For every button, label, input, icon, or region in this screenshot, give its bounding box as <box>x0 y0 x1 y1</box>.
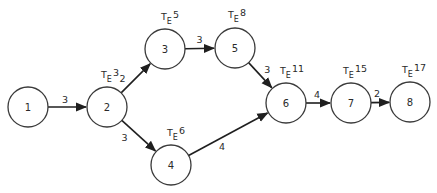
edge-duration-label: 2 <box>374 88 380 99</box>
earliest-time-label: TE17 <box>401 62 426 79</box>
te-value: 5 <box>173 9 179 20</box>
te-subscript: E <box>286 71 291 80</box>
node-number: 7 <box>348 98 354 109</box>
node-number: 5 <box>232 43 238 54</box>
node-number: 3 <box>162 44 168 55</box>
node-number: 1 <box>25 102 31 113</box>
earliest-time-label: TE11 <box>279 63 304 80</box>
edge-duration-label: 2 <box>120 73 126 84</box>
te-subscript: E <box>349 71 354 80</box>
node-number: 2 <box>104 102 110 113</box>
te-value: 15 <box>355 63 367 74</box>
te-value: 11 <box>292 63 304 74</box>
te-value: 3 <box>113 67 119 78</box>
edge-6-7: 4 <box>306 89 330 104</box>
edge-7-8: 2 <box>371 88 389 103</box>
te-subscript: E <box>234 15 239 24</box>
te-value: 17 <box>414 62 426 73</box>
te-value: 6 <box>179 125 185 136</box>
edge-5-6: 3 <box>249 63 272 88</box>
edge-1-2: 3 <box>48 94 86 108</box>
earliest-time-label: TE15 <box>342 63 367 80</box>
node-8: 8TE17 <box>390 62 430 122</box>
edge-3-5: 3 <box>185 34 214 49</box>
te-value: 8 <box>240 7 246 18</box>
network-diagram: 32333442 12TE33TE54TE65TE86TE117TE158TE1… <box>0 0 437 193</box>
edge-duration-label: 3 <box>196 34 202 45</box>
node-3: 3TE5 <box>145 9 185 69</box>
earliest-time-label: TE8 <box>227 7 246 24</box>
te-subscript: E <box>167 17 172 26</box>
node-number: 4 <box>168 160 174 171</box>
node-1: 1 <box>8 87 48 127</box>
node-7: 7TE15 <box>331 63 371 123</box>
edge-duration-label: 3 <box>122 132 128 143</box>
node-number: 6 <box>283 98 289 109</box>
te-subscript: E <box>107 75 112 84</box>
edge-duration-label: 3 <box>264 64 270 75</box>
earliest-time-label: TE6 <box>166 125 185 142</box>
node-number: 8 <box>407 97 413 108</box>
edge-duration-label: 4 <box>314 89 320 100</box>
edge-4-6: 4 <box>189 113 268 156</box>
edge-arrow <box>189 113 268 156</box>
edge-2-4: 3 <box>122 120 156 150</box>
node-4: 4TE6 <box>151 125 191 185</box>
te-subscript: E <box>408 70 413 79</box>
edge-2-3: 2 <box>120 64 151 93</box>
edge-duration-label: 4 <box>219 141 225 152</box>
nodes-layer: 12TE33TE54TE65TE86TE117TE158TE17 <box>8 7 430 185</box>
node-5: 5TE8 <box>215 7 255 68</box>
edge-duration-label: 3 <box>62 94 68 105</box>
te-subscript: E <box>173 133 178 142</box>
node-6: 6TE11 <box>266 63 306 123</box>
earliest-time-label: TE5 <box>160 9 179 26</box>
earliest-time-label: TE3 <box>100 67 119 84</box>
